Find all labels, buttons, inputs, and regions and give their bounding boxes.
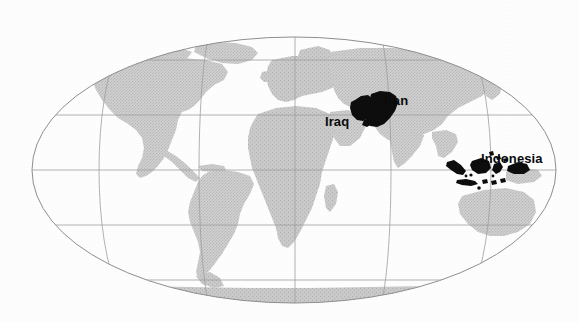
- meridian-line-w3: [14, 64, 33, 276]
- land-africa: [248, 106, 336, 248]
- highlight-country-indonesia-lesser-sunda: [482, 178, 506, 185]
- land-southeast-asia: [432, 130, 458, 158]
- highlight-country-indonesia-sumatra: [446, 160, 466, 175]
- highlight-dot-2: [477, 186, 481, 190]
- country-label-iraq: Iraq: [325, 115, 349, 128]
- highlight-dot-4: [465, 175, 468, 178]
- meridian-line-e3: [556, 64, 575, 276]
- world-map-figure: Iran Iraq Indonesia: [0, 0, 579, 322]
- highlight-country-indonesia-java: [456, 179, 478, 186]
- land-india: [390, 124, 424, 168]
- land-australia: [458, 188, 536, 236]
- land-antarctica: [38, 286, 556, 313]
- land-new-zealand: [546, 222, 560, 238]
- land-madagascar: [324, 184, 338, 212]
- country-label-indonesia: Indonesia: [481, 152, 543, 165]
- country-label-iran: Iran: [384, 94, 408, 107]
- land-south-america: [188, 170, 254, 278]
- highlight-dot-3: [492, 175, 495, 178]
- landmass-group: [38, 42, 560, 313]
- land-central-america: [164, 150, 200, 182]
- highlight-dot-1: [469, 173, 472, 176]
